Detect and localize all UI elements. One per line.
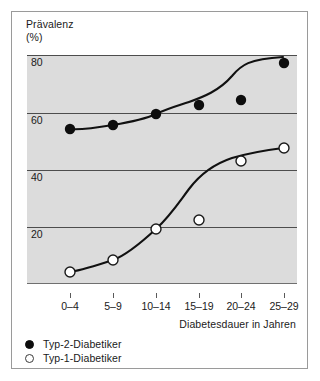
y-tick-label-80: 80 bbox=[31, 57, 43, 68]
data-point-typ2-0 bbox=[65, 124, 75, 134]
data-point-typ1-2 bbox=[151, 224, 161, 234]
data-point-typ1-1 bbox=[108, 255, 118, 265]
series-line-typ-1 bbox=[70, 148, 283, 272]
data-point-typ2-1 bbox=[108, 120, 118, 130]
data-point-typ2-3 bbox=[194, 100, 204, 110]
data-point-typ1-0 bbox=[65, 267, 75, 277]
gridlines bbox=[27, 56, 297, 284]
y-axis-title-line-2: (%) bbox=[26, 31, 43, 43]
data-point-typ2-4 bbox=[236, 95, 246, 105]
data-point-typ1-3 bbox=[194, 215, 204, 225]
data-point-typ1-4 bbox=[236, 156, 246, 166]
x-tick-mark-2 bbox=[156, 293, 157, 298]
x-tick-label-3: 15–19 bbox=[184, 300, 213, 312]
series-markers-typ-1 bbox=[65, 143, 289, 277]
x-tick-mark-4 bbox=[241, 293, 242, 298]
plot-area bbox=[27, 55, 297, 284]
x-axis-title: Diabetesdauer in Jahren bbox=[179, 318, 296, 330]
filled-circle-icon bbox=[25, 340, 34, 349]
chart-figure: Prävalenz(%) bbox=[0, 0, 320, 381]
open-circle-icon bbox=[25, 354, 34, 363]
series-line-typ-2 bbox=[70, 57, 283, 129]
data-point-typ1-5 bbox=[279, 143, 289, 153]
legend-item-typ-2: Typ-2-Diabetiker bbox=[25, 337, 122, 351]
series-markers-typ-2 bbox=[65, 58, 289, 134]
x-tick-label-1: 5–9 bbox=[104, 300, 122, 312]
x-tick-mark-3 bbox=[199, 293, 200, 298]
y-tick-label-20: 20 bbox=[31, 229, 43, 240]
x-tick-mark-5 bbox=[284, 293, 285, 298]
x-tick-mark-1 bbox=[113, 293, 114, 298]
x-tick-label-2: 10–14 bbox=[141, 300, 170, 312]
y-tick-label-60: 60 bbox=[31, 115, 43, 126]
legend-label-typ-1: Typ-1-Diabetiker bbox=[43, 351, 122, 365]
x-tick-label-5: 25–29 bbox=[269, 300, 298, 312]
chart-legend: Typ-2-Diabetiker Typ-1-Diabetiker bbox=[25, 337, 122, 365]
y-axis-title-line-1: Prävalenz bbox=[26, 18, 74, 30]
legend-label-typ-2: Typ-2-Diabetiker bbox=[43, 337, 122, 351]
data-point-typ2-5 bbox=[279, 58, 289, 68]
x-tick-label-4: 20–24 bbox=[226, 300, 255, 312]
plot-svg bbox=[27, 55, 297, 284]
data-point-typ2-2 bbox=[151, 109, 161, 119]
x-tick-mark-0 bbox=[70, 293, 71, 298]
y-tick-label-40: 40 bbox=[31, 172, 43, 183]
x-tick-label-0: 0–4 bbox=[61, 300, 79, 312]
legend-item-typ-1: Typ-1-Diabetiker bbox=[25, 351, 122, 365]
y-axis-title: Prävalenz(%) bbox=[26, 18, 74, 43]
